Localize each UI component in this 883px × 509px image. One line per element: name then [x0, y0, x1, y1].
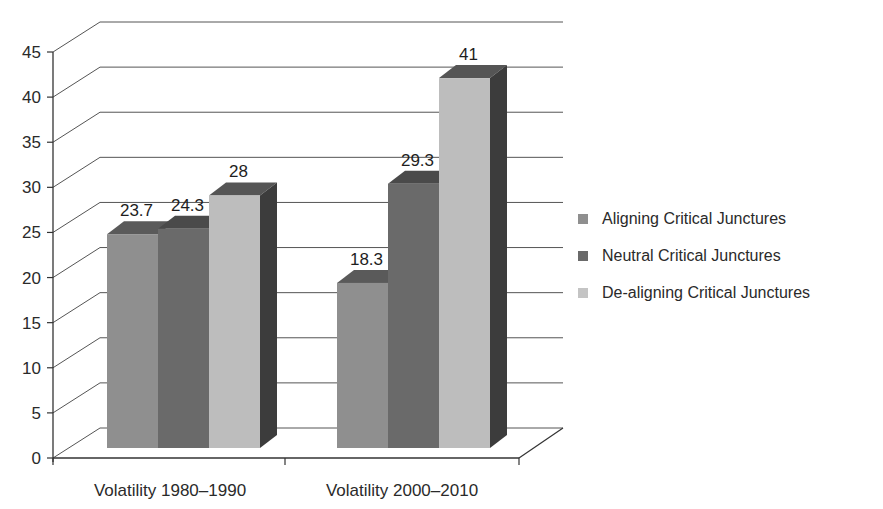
data-label: 41 — [459, 45, 478, 64]
y-tick-label: 0 — [32, 449, 41, 468]
y-tick-label: 40 — [22, 88, 41, 107]
legend-swatch-aligning — [578, 214, 588, 224]
x-axis-labels: Volatility 1980–1990Volatility 2000–2010 — [94, 481, 478, 500]
bars — [107, 65, 507, 448]
y-tick-label: 30 — [22, 178, 41, 197]
y-tick-label: 25 — [22, 223, 41, 242]
legend-swatch-dealigning — [578, 288, 588, 298]
data-label: 24.3 — [171, 196, 204, 215]
x-category-label: Volatility 1980–1990 — [94, 481, 246, 500]
bar — [209, 182, 277, 448]
legend-label-dealigning: De-aligning Critical Junctures — [602, 284, 810, 302]
bar — [439, 65, 507, 448]
y-axis-ticks: 051015202530354045 — [22, 43, 41, 468]
y-tick-label: 5 — [32, 404, 41, 423]
y-tick-label: 10 — [22, 359, 41, 378]
legend-label-aligning: Aligning Critical Junctures — [602, 210, 786, 228]
data-label: 28 — [229, 162, 248, 181]
legend-label-neutral: Neutral Critical Junctures — [602, 247, 781, 265]
y-tick-label: 45 — [22, 43, 41, 62]
data-label: 23.7 — [120, 201, 153, 220]
y-tick-label: 20 — [22, 269, 41, 288]
x-category-label: Volatility 2000–2010 — [326, 481, 478, 500]
y-tick-label: 15 — [22, 314, 41, 333]
legend-item-aligning: Aligning Critical Junctures — [578, 200, 810, 237]
data-label: 29.3 — [401, 151, 434, 170]
legend-swatch-neutral — [578, 251, 588, 261]
data-label: 18.3 — [350, 250, 383, 269]
y-tick-label: 35 — [22, 133, 41, 152]
legend: Aligning Critical Junctures Neutral Crit… — [578, 200, 810, 311]
legend-item-dealigning: De-aligning Critical Junctures — [578, 274, 810, 311]
legend-item-neutral: Neutral Critical Junctures — [578, 237, 810, 274]
